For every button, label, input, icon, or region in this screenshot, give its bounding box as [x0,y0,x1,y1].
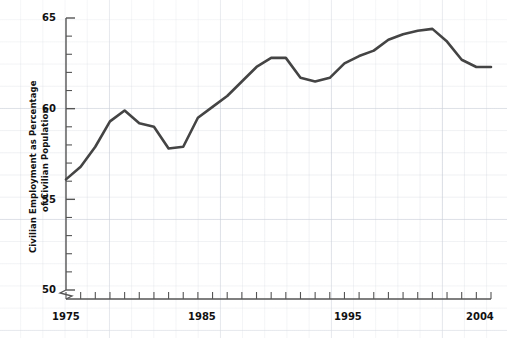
data-series-line [66,29,491,180]
x-axis-ticks [66,292,491,299]
y-axis-ticks [66,18,75,290]
plot-area [0,0,507,338]
